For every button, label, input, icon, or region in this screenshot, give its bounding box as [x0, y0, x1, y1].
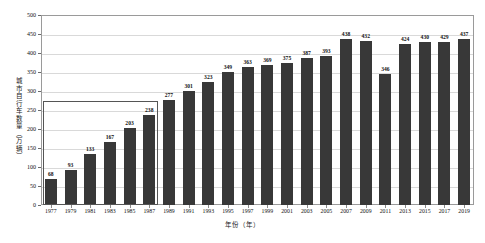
x-tick-mark: [464, 205, 465, 208]
x-tick-mark: [385, 205, 386, 208]
bar-rect: [301, 58, 313, 205]
bar-rect: [261, 65, 273, 205]
x-tick-mark: [307, 205, 308, 208]
x-axis-title: 年份（年）: [0, 219, 485, 229]
bar: [281, 63, 293, 206]
x-tick-mark: [169, 205, 170, 208]
x-tick-mark: [130, 205, 131, 208]
y-tick-label: 400: [10, 50, 36, 56]
bar-rect: [242, 67, 254, 205]
x-tick-mark: [71, 205, 72, 208]
bar-value-label: 437: [449, 31, 479, 37]
bar: [458, 39, 470, 205]
bar-rect: [458, 39, 470, 205]
y-tick-label: 250: [10, 107, 36, 113]
bar-rect: [419, 42, 431, 205]
y-tick-label: 50: [10, 183, 36, 189]
bar-value-label: 393: [311, 48, 341, 54]
y-tick-label: 0: [10, 202, 36, 208]
bar: [379, 74, 391, 205]
bar-rect: [379, 74, 391, 205]
x-tick-mark: [366, 205, 367, 208]
y-axis-title: 城市自行车数量（万辆）: [10, 56, 26, 181]
bar-rect: [163, 100, 175, 205]
x-tick-mark: [287, 205, 288, 208]
bar: [340, 39, 352, 205]
bar-rect: [399, 44, 411, 205]
x-axis-ticks: 1977197919811983198519871989199119931995…: [41, 207, 474, 219]
y-tick-label: 500: [10, 12, 36, 18]
bar: [261, 65, 273, 205]
bar: [438, 42, 450, 205]
y-tick-label: 300: [10, 88, 36, 94]
highlight-rectangle: [43, 101, 158, 206]
bar: [399, 44, 411, 205]
bar: [183, 91, 195, 205]
bar-value-label: 346: [370, 66, 400, 72]
bar: [202, 82, 214, 205]
bar-rect: [202, 82, 214, 205]
x-tick-mark: [189, 205, 190, 208]
y-tick-label: 350: [10, 69, 36, 75]
y-tick-label: 450: [10, 31, 36, 37]
bar-series: 6893133167203238277301323349363369375387…: [41, 15, 474, 205]
x-tick-mark: [346, 205, 347, 208]
x-tick-mark: [405, 205, 406, 208]
bar-value-label: 301: [174, 83, 204, 89]
y-tick-label: 150: [10, 145, 36, 151]
bar-rect: [222, 72, 234, 205]
bar-value-label: 277: [154, 92, 184, 98]
bar: [222, 72, 234, 205]
bar-value-label: 432: [351, 33, 381, 39]
x-tick-mark: [228, 205, 229, 208]
x-tick-mark: [267, 205, 268, 208]
chart-figure: 城市自行车数量（万辆） 0501001502002503003504004505…: [0, 0, 485, 243]
x-tick-mark: [51, 205, 52, 208]
bar-rect: [281, 63, 293, 206]
bar: [301, 58, 313, 205]
bar-rect: [320, 56, 332, 205]
bar: [419, 42, 431, 205]
bar: [163, 100, 175, 205]
x-tick-mark: [425, 205, 426, 208]
bar-rect: [340, 39, 352, 205]
x-tick-mark: [149, 205, 150, 208]
bar-rect: [183, 91, 195, 205]
y-tick-label: 100: [10, 164, 36, 170]
x-tick-mark: [248, 205, 249, 208]
y-tick-mark: [38, 205, 41, 206]
x-tick-mark: [90, 205, 91, 208]
y-tick-label: 200: [10, 126, 36, 132]
bar: [320, 56, 332, 205]
bar-value-label: 323: [193, 74, 223, 80]
bar-value-label: 349: [213, 64, 243, 70]
x-tick-mark: [110, 205, 111, 208]
bar: [242, 67, 254, 205]
x-tick-mark: [326, 205, 327, 208]
x-tick-mark: [444, 205, 445, 208]
x-tick-label: 2019: [449, 208, 479, 214]
x-tick-mark: [208, 205, 209, 208]
bar-rect: [438, 42, 450, 205]
